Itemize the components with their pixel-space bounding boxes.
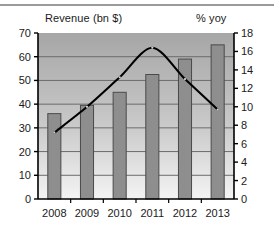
chart-figure: Revenue (bn $) % yoy 010203040506070 024…	[0, 0, 274, 234]
category-label-2008: 2008	[42, 207, 66, 219]
yoy-point-2013	[217, 108, 219, 110]
right-tick-0: 0	[241, 193, 247, 205]
left-tick-50: 50	[19, 74, 31, 86]
chart-canvas: 010203040506070 024681012141618 20082009…	[0, 0, 274, 234]
right-tick-4: 4	[241, 156, 247, 168]
yoy-point-2011	[151, 47, 153, 49]
right-tick-8: 8	[241, 119, 247, 131]
left-tick-30: 30	[19, 122, 31, 134]
left-tick-10: 10	[19, 169, 31, 181]
right-tick-14: 14	[241, 64, 253, 76]
right-tick-2: 2	[241, 175, 247, 187]
left-axis-ticks: 010203040506070	[19, 27, 38, 205]
bar-2009	[80, 105, 93, 199]
bar-2008	[48, 114, 61, 199]
left-tick-70: 70	[19, 27, 31, 39]
category-label-2010: 2010	[107, 207, 131, 219]
right-tick-18: 18	[241, 27, 253, 39]
yoy-point-2010	[119, 76, 121, 78]
right-tick-16: 16	[241, 45, 253, 57]
category-label-2009: 2009	[75, 207, 99, 219]
left-tick-60: 60	[19, 51, 31, 63]
category-label-2013: 2013	[205, 207, 229, 219]
yoy-point-2009	[86, 106, 88, 108]
left-tick-40: 40	[19, 98, 31, 110]
bar-2013	[211, 45, 224, 199]
right-axis-ticks: 024681012141618	[234, 27, 253, 205]
left-tick-20: 20	[19, 146, 31, 158]
category-label-2011: 2011	[141, 207, 165, 219]
x-axis-category-labels: 200820092010201120122013	[42, 199, 230, 219]
right-tick-6: 6	[241, 138, 247, 150]
yoy-point-2012	[184, 78, 186, 80]
right-tick-12: 12	[241, 82, 253, 94]
left-tick-0: 0	[25, 193, 31, 205]
bar-2011	[146, 75, 159, 200]
bar-2010	[113, 92, 126, 199]
yoy-point-2008	[53, 132, 55, 134]
right-tick-10: 10	[241, 101, 253, 113]
category-label-2012: 2012	[173, 207, 197, 219]
